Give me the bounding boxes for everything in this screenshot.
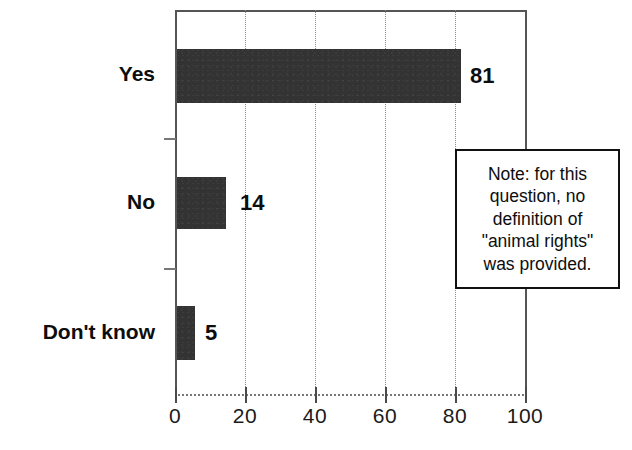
bar-value-dont-know: 5	[205, 320, 217, 346]
x-tick-100	[525, 387, 527, 403]
x-tick-40	[315, 387, 317, 403]
x-tick-0	[175, 387, 177, 403]
x-tick-label-40: 40	[285, 404, 345, 428]
x-tick-label-80: 80	[425, 404, 485, 428]
x-tick-80	[455, 387, 457, 403]
bar-yes	[177, 49, 461, 103]
x-tick-label-0: 0	[145, 404, 205, 428]
bar-no	[177, 177, 226, 229]
category-label-yes: Yes	[0, 62, 155, 86]
category-label-dont-know: Don't know	[0, 320, 155, 344]
note-callout-text: Note: for this question, no definition o…	[482, 163, 594, 275]
bar-dont-know	[177, 306, 195, 360]
y-axis-tick-1	[164, 138, 176, 140]
bar-chart: 0 20 40 60 80 100 Yes No Don't know 81 1…	[0, 0, 632, 450]
y-axis-tick-2	[164, 268, 176, 270]
note-callout-box: Note: for this question, no definition o…	[455, 149, 620, 289]
bar-value-no: 14	[240, 190, 264, 216]
note-line-1: Note: for this	[488, 164, 587, 184]
x-tick-60	[385, 387, 387, 403]
x-tick-label-100: 100	[495, 404, 555, 428]
x-tick-label-60: 60	[355, 404, 415, 428]
note-line-3: definition of	[493, 209, 583, 229]
x-axis-line	[175, 394, 527, 396]
note-line-2: question, no	[490, 186, 585, 206]
bar-value-yes: 81	[470, 63, 494, 89]
note-line-4: "animal rights"	[482, 231, 594, 251]
x-tick-20	[245, 387, 247, 403]
category-label-no: No	[0, 190, 155, 214]
note-line-5: was provided.	[484, 254, 592, 274]
x-tick-label-20: 20	[215, 404, 275, 428]
